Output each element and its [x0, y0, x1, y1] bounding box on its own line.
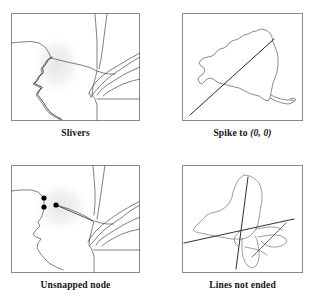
new-england-west-outline [193, 175, 244, 239]
shoreline-tertiary [103, 79, 140, 96]
caption-spike-coordinates: (0, 0) [250, 128, 271, 138]
node-marker [53, 202, 58, 207]
boundary-vertical-lower [92, 71, 97, 121]
shoreline-secondary [97, 67, 140, 95]
coast-detail-b [245, 247, 267, 255]
map-artwork-spike [182, 13, 303, 121]
panel-unsnapped [11, 165, 140, 273]
spike-line-to-origin [190, 39, 274, 115]
caption-unsnapped-text: Unsnapped node [41, 280, 111, 290]
boundary-vertical-upper-b [97, 165, 105, 219]
new-england-south-outline [242, 236, 259, 268]
shoreline-inlet [95, 221, 113, 224]
new-york-outline [198, 29, 278, 101]
caption-spike: Spike to (0, 0) [176, 128, 309, 138]
caption-lines-not-ended: Lines not ended [176, 280, 309, 290]
boundary-vertical-upper [95, 14, 97, 69]
shoreline-inlet [97, 71, 115, 74]
map-artwork-lines-not-ended [182, 165, 303, 273]
overshoot-line-vertical [236, 177, 248, 269]
caption-slivers: Slivers [11, 128, 140, 138]
boundary-vertical-lower [89, 221, 94, 273]
panel-spike [182, 13, 303, 121]
map-artwork-slivers [11, 13, 140, 121]
shoreline-wedge-tip [89, 93, 91, 97]
shoreline-wedge-lower [91, 57, 140, 97]
boundary-vertical-upper [93, 165, 95, 215]
caption-slivers-text: Slivers [61, 128, 90, 138]
panel-slivers [11, 13, 140, 121]
panel-lines-not-ended [182, 165, 303, 273]
shoreline-tertiary [102, 229, 140, 246]
node-marker [41, 195, 46, 200]
caption-unsnapped: Unsnapped node [11, 280, 140, 290]
long-island-outline [270, 95, 294, 104]
digitizing-errors-figure: Slivers Spike to (0, 0) [0, 0, 315, 302]
map-artwork-unsnapped [11, 165, 140, 273]
caption-spike-text: Spike to [213, 128, 250, 138]
boundary-vertical-upper-b [99, 14, 107, 69]
shoreline-wedge-lower [89, 205, 140, 246]
caption-lines-not-ended-text: Lines not ended [209, 280, 276, 290]
node-marker [41, 204, 46, 209]
